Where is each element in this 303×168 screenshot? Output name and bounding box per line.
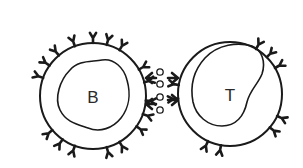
antigen-group [157, 69, 163, 113]
receptor-icon [40, 57, 50, 65]
antigen-icon [157, 81, 163, 87]
receptor-icon [106, 34, 112, 45]
receptor-icon [201, 141, 208, 152]
receptor-icon [256, 39, 264, 49]
synapse-interface [146, 69, 178, 113]
receptor-icon [139, 62, 149, 70]
receptor-icon [275, 60, 285, 68]
receptor-icon [69, 36, 75, 47]
receptor-icon [90, 33, 96, 43]
b-cell-label: B [87, 88, 98, 107]
receptor-icon [50, 46, 59, 56]
receptor-icon [33, 72, 44, 78]
t-cell: T [168, 39, 288, 156]
receptor-icon [106, 147, 112, 158]
antigen-icon [157, 69, 163, 75]
antigen-icon [157, 107, 163, 113]
t-cell-label: T [225, 86, 235, 105]
receptor-icon [143, 114, 154, 120]
antigen-icon [157, 94, 163, 100]
receptor-icon [120, 40, 128, 50]
receptor-icon [270, 127, 280, 136]
b-cell: B [33, 33, 157, 158]
receptor-icon [136, 126, 146, 134]
b-t-cell-interaction-diagram: B T [0, 0, 303, 168]
receptor-icon [216, 145, 222, 156]
receptor-icon [54, 139, 62, 149]
receptor-icon [277, 116, 288, 123]
receptor-icon [69, 146, 75, 157]
receptor-icon [43, 130, 53, 139]
receptor-icon [267, 48, 276, 57]
receptor-icon [120, 142, 128, 152]
